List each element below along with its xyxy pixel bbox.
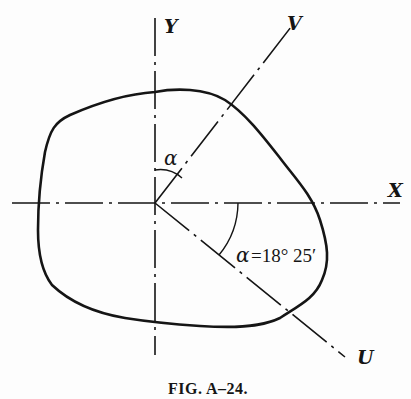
u-axis [155,203,345,357]
lower-angle-value: =18° 25′ [251,245,316,266]
u-axis-label: U [357,346,375,368]
lower-angle-symbol: α [236,243,250,267]
v-axis-label: V [287,12,304,34]
section-outline [38,90,327,327]
principal-axes-diagram: Y V X U α α =18° 25′ FIG. A–24. [0,0,411,399]
x-axis-label: X [387,179,404,201]
y-axis-label: Y [164,15,180,37]
figure-caption: FIG. A–24. [168,380,248,397]
v-axis [155,27,291,203]
upper-angle-label: α [164,146,178,170]
